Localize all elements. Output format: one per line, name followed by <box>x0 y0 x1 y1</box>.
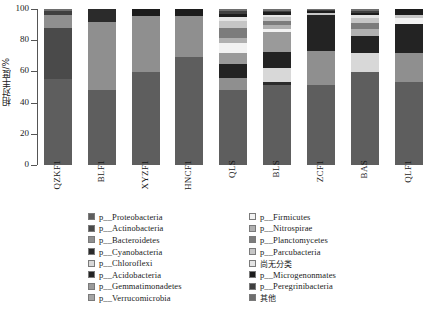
segment-p__Firmicutes <box>219 43 247 52</box>
segment-p__Gemmatimonadetes <box>263 32 291 52</box>
legend-item[interactable]: p__Gemmatimonadetes <box>88 281 182 293</box>
legend-item[interactable]: p__Planctomycetes <box>249 234 336 246</box>
legend-label: p__Planctomycetes <box>260 235 328 245</box>
legend-swatch-icon <box>88 271 95 278</box>
bar-QLS <box>219 9 247 165</box>
x-label-HNCF1: HNCF1 <box>183 160 197 190</box>
segment-p__Parcubacteria <box>219 21 247 28</box>
y-tick-0: 0 <box>31 165 37 166</box>
segment-p__Actinobacteria <box>44 28 72 79</box>
segment-p__Planctomycetes <box>219 28 247 38</box>
legend-item[interactable]: p__Peregrinibacteria <box>249 281 336 293</box>
legend-item[interactable]: 尚无分类 <box>249 257 336 269</box>
legend-item[interactable]: 其他 <box>249 292 336 304</box>
bar-group <box>38 9 438 165</box>
bar-stack <box>307 9 335 165</box>
legend-item[interactable]: p__Actinobacteria <box>88 223 182 235</box>
segment-p__Proteobacteria <box>219 90 247 165</box>
x-label-ZCF1: ZCF1 <box>315 160 329 182</box>
legend-item[interactable]: p__Bacteroidetes <box>88 234 182 246</box>
x-label-QLF1: QLF1 <box>403 160 417 183</box>
y-tick-80: 80 <box>31 40 37 41</box>
legend-label: p__Actinobacteria <box>99 223 163 233</box>
x-label-QZKF1: QZKF1 <box>52 160 66 190</box>
legend-label: p__Firmicutes <box>260 212 310 222</box>
segment-p__Proteobacteria <box>44 79 72 165</box>
bar-stack <box>351 9 379 165</box>
legend-label: p__Microgenonmates <box>260 270 336 280</box>
segment-p__Proteobacteria <box>307 85 335 165</box>
segment-p__Microgenonmates <box>132 9 160 16</box>
segment-p__Proteobacteria <box>263 85 291 165</box>
legend-label: p__Cyanobacteria <box>99 247 162 257</box>
bar-BAS <box>351 9 379 165</box>
segment-p__Acidobacteria <box>395 24 423 54</box>
legend-swatch-icon <box>88 213 95 220</box>
segment-p__Acidobacteria <box>263 52 291 68</box>
y-tick-20: 20 <box>31 134 37 135</box>
segment-p__Chloroflexi <box>263 68 291 82</box>
segment-p__Acidobacteria <box>307 15 335 51</box>
legend-item[interactable]: p__Verrucomicrobia <box>88 292 182 304</box>
legend-label: p__Proteobacteria <box>99 212 163 222</box>
legend-swatch-icon <box>88 283 95 290</box>
bar-XYZF1 <box>132 9 160 165</box>
legend-swatch-icon <box>249 283 256 290</box>
segment-p__Gemmatimonadetes <box>219 53 247 65</box>
legend-item[interactable]: p__Parcubacteria <box>249 246 336 258</box>
x-label-BAS: BAS <box>359 160 373 178</box>
legend-swatch-icon <box>88 260 95 267</box>
legend-item[interactable]: p__Cyanobacteria <box>88 246 182 258</box>
legend-swatch-icon <box>249 236 256 243</box>
bar-stack <box>175 9 203 165</box>
segment-p__Proteobacteria <box>175 57 203 165</box>
bar-stack <box>263 9 291 165</box>
bar-stack <box>219 9 247 165</box>
legend-item[interactable]: p__Nitrospirae <box>249 223 336 235</box>
y-tick-40: 40 <box>31 103 37 104</box>
segment-p__Microgenonmates <box>175 9 203 16</box>
legend-label: p__Nitrospirae <box>260 223 312 233</box>
bar-BLF1 <box>88 9 116 165</box>
legend-swatch-icon <box>88 236 95 243</box>
segment-p__Acidobacteria <box>219 64 247 78</box>
legend-label: p__Chloroflexi <box>99 258 152 268</box>
bar-QZKF1 <box>44 9 72 165</box>
y-tick-60: 60 <box>31 71 37 72</box>
bar-stack <box>132 9 160 165</box>
segment-p__Bacteroidetes <box>175 16 203 57</box>
y-tick-label: 40 <box>20 97 29 107</box>
y-tick-label: 80 <box>20 34 29 44</box>
legend-swatch-icon <box>249 294 256 301</box>
legend-label: 尚无分类 <box>260 258 292 269</box>
y-tick-label: 60 <box>20 65 29 75</box>
y-tick-label: 20 <box>20 128 29 138</box>
segment-p__Bacteroidetes <box>219 78 247 90</box>
segment-p__Bacteroidetes <box>88 22 116 91</box>
segment-p__Cyanobacteria <box>88 9 116 21</box>
bar-stack <box>44 9 72 165</box>
bar-stack <box>88 9 116 165</box>
x-label-XYZF1: XYZF1 <box>140 160 154 190</box>
legend-item[interactable]: p__Firmicutes <box>249 211 336 223</box>
legend-swatch-icon <box>88 225 95 232</box>
legend-column-left: p__Proteobacteriap__Actinobacteriap__Bac… <box>88 211 182 304</box>
legend-swatch-icon <box>88 248 95 255</box>
segment-p__Bacteroidetes <box>395 53 423 81</box>
segment-p__Proteobacteria <box>88 90 116 165</box>
legend-swatch-icon <box>249 271 256 278</box>
segment-p__Nitrospirae <box>351 29 379 36</box>
legend-label: p__Gemmatimonadetes <box>99 281 182 291</box>
legend-swatch-icon <box>249 260 256 267</box>
legend-item[interactable]: p__Microgenonmates <box>249 269 336 281</box>
legend-label: p__Verrucomicrobia <box>99 293 171 303</box>
legend-item[interactable]: p__Proteobacteria <box>88 211 182 223</box>
legend-item[interactable]: p__Acidobacteria <box>88 269 182 281</box>
segment-p__Proteobacteria <box>132 72 160 165</box>
segment-p__Proteobacteria <box>351 72 379 165</box>
segment-p__Chloroflexi <box>351 53 379 72</box>
legend: p__Proteobacteriap__Actinobacteriap__Bac… <box>0 207 445 311</box>
y-tick-100: 100 <box>31 9 37 10</box>
legend-item[interactable]: p__Chloroflexi <box>88 257 182 269</box>
y-tick-label: 100 <box>16 3 30 13</box>
